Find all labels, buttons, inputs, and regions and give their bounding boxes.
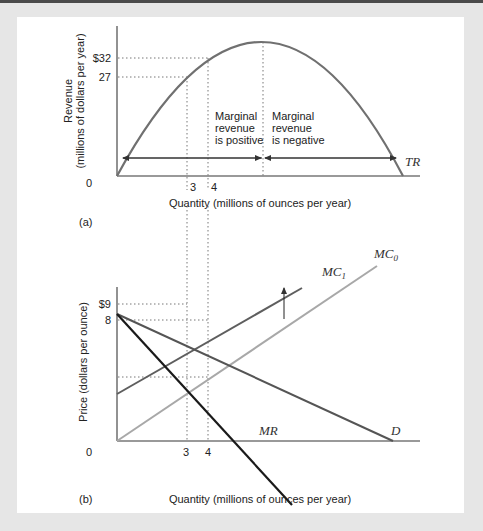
x-tick-3-a: 3 — [190, 181, 196, 193]
y-tick-32: $32 — [93, 52, 111, 64]
panel-label-b: (b) — [79, 493, 92, 505]
tr-curve — [117, 42, 403, 176]
y-axis-title-b: Price (dollars per ounce) — [77, 302, 89, 422]
chart-b: MC1 MC0 MR D $9 8 0 3 4 Price (dollars p… — [77, 246, 420, 505]
mr-label: MR — [258, 423, 278, 438]
mr-negative-line3: is negative — [272, 134, 325, 146]
mr-positive-line3: is positive — [215, 134, 263, 146]
x-tick-0-a: 0 — [86, 177, 92, 189]
mr-negative-line2: revenue — [272, 122, 312, 134]
mc1-label: MC1 — [321, 264, 346, 281]
y-tick-27: 27 — [99, 71, 111, 83]
mr-positive-line2: revenue — [215, 122, 255, 134]
tr-label: TR — [405, 154, 420, 169]
guides-b — [118, 304, 208, 377]
mr-negative-line1: Marginal — [272, 110, 314, 122]
y-tick-9: $9 — [99, 298, 111, 310]
demand-label: D — [390, 423, 401, 438]
chart-a: $32 27 0 3 4 Marginal revenue is positiv… — [62, 26, 420, 441]
mr-line — [117, 314, 292, 505]
y-axis-title-a-line1: Revenue — [62, 79, 74, 123]
x-tick-4-a: 4 — [211, 181, 217, 193]
x-tick-3-b: 3 — [183, 446, 189, 458]
mr-positive-line1: Marginal — [215, 110, 257, 122]
mc0-label: MC0 — [373, 246, 399, 263]
x-tick-0-b: 0 — [86, 446, 92, 458]
x-tick-4-b: 4 — [205, 446, 211, 458]
figure-svg: $32 27 0 3 4 Marginal revenue is positiv… — [0, 0, 483, 531]
y-tick-8: 8 — [105, 314, 111, 326]
x-axis-title-a: Quantity (millions of ounces per year) — [169, 197, 351, 209]
y-axis-title-a-line2: (millions of dollars per year) — [74, 33, 86, 168]
x-axis-title-b: Quantity (millions of ounces per year) — [169, 493, 351, 505]
panel-label-a: (a) — [79, 216, 92, 228]
